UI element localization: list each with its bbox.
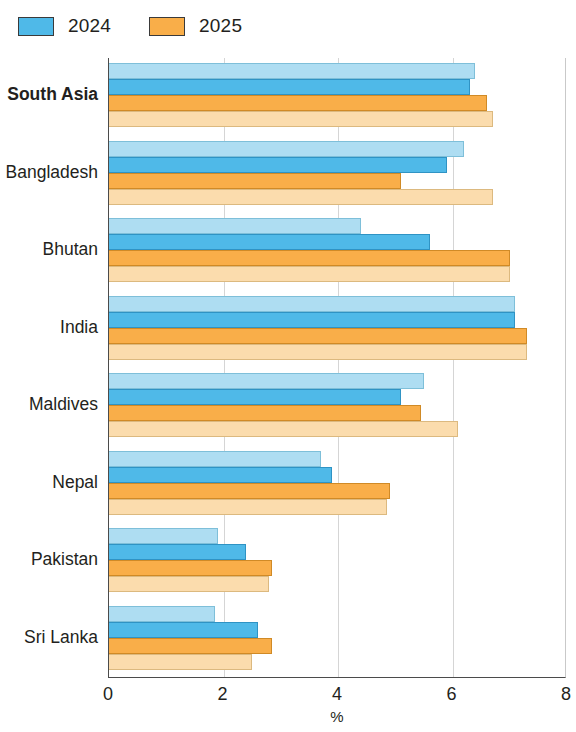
x-axis-title: % [108, 708, 566, 725]
bar-group [109, 218, 565, 282]
legend-2025[interactable]: 2025 [149, 15, 242, 37]
bar-group [109, 373, 565, 437]
category-label: India [0, 319, 98, 337]
bar[interactable] [109, 373, 424, 389]
bar[interactable] [109, 606, 215, 622]
bar[interactable] [109, 234, 430, 250]
bar[interactable] [109, 218, 361, 234]
bar[interactable] [109, 79, 470, 95]
bar[interactable] [109, 328, 527, 344]
legend-swatch-icon [149, 17, 185, 36]
bars-layer [109, 58, 565, 677]
bar[interactable] [109, 389, 401, 405]
legend-label: 2025 [199, 15, 242, 37]
bar[interactable] [109, 296, 515, 312]
category-label: Maldives [0, 396, 98, 414]
bar[interactable] [109, 111, 493, 127]
bar[interactable] [109, 483, 390, 499]
bar-group [109, 296, 565, 360]
category-axis-labels: South AsiaBangladeshBhutanIndiaMaldivesN… [0, 58, 98, 678]
legend-label: 2024 [68, 15, 111, 37]
x-axis-ticks: 02468 [108, 678, 566, 708]
category-label: Bhutan [0, 241, 98, 259]
bar[interactable] [109, 173, 401, 189]
bar-group [109, 528, 565, 592]
x-tick-label: 4 [332, 684, 342, 705]
bar[interactable] [109, 576, 269, 592]
bar[interactable] [109, 638, 272, 654]
bar[interactable] [109, 250, 510, 266]
x-tick-label: 8 [561, 684, 571, 705]
bar[interactable] [109, 622, 258, 638]
bar[interactable] [109, 63, 475, 79]
bar[interactable] [109, 421, 458, 437]
category-label: Sri Lanka [0, 629, 98, 647]
legend-2024[interactable]: 2024 [18, 15, 111, 37]
x-tick-label: 0 [103, 684, 113, 705]
bar[interactable] [109, 560, 272, 576]
bar[interactable] [109, 451, 321, 467]
bar-group [109, 451, 565, 515]
bar[interactable] [109, 141, 464, 157]
legend-swatch-icon [18, 17, 54, 36]
bar[interactable] [109, 467, 332, 483]
category-label: South Asia [0, 86, 98, 104]
bar[interactable] [109, 544, 246, 560]
category-label: Bangladesh [0, 164, 98, 182]
bar[interactable] [109, 157, 447, 173]
bar[interactable] [109, 189, 493, 205]
bar[interactable] [109, 344, 527, 360]
bar-group [109, 141, 565, 205]
bar[interactable] [109, 499, 387, 515]
bar-group [109, 606, 565, 670]
bar[interactable] [109, 312, 515, 328]
bar[interactable] [109, 405, 421, 421]
category-label: Nepal [0, 474, 98, 492]
x-tick-label: 2 [217, 684, 227, 705]
bar[interactable] [109, 528, 218, 544]
x-tick-label: 6 [446, 684, 456, 705]
bar[interactable] [109, 95, 487, 111]
chart-legend: 20242025 [18, 11, 242, 41]
bar-chart: 20242025 South AsiaBangladeshBhutanIndia… [0, 0, 576, 732]
bar[interactable] [109, 654, 252, 670]
plot-area [108, 58, 566, 678]
bar[interactable] [109, 266, 510, 282]
bar-group [109, 63, 565, 127]
category-label: Pakistan [0, 551, 98, 569]
